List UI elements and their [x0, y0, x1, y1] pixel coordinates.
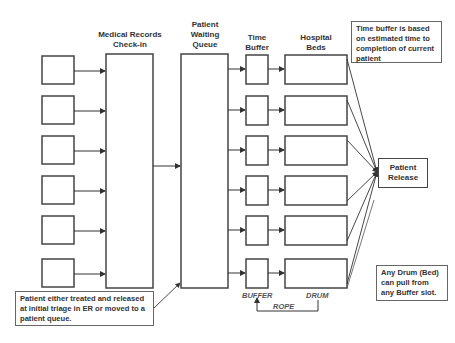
note-triage: Patient either treated and released at i…	[15, 291, 154, 326]
hospital-bed	[285, 176, 347, 205]
buffer-slot	[246, 96, 268, 125]
note-drum: Any Drum (Bed) can pull from any Buffer …	[376, 265, 448, 301]
buffer-slot	[246, 136, 268, 165]
tag-drum: DRUM	[306, 291, 329, 300]
intake-box	[42, 56, 74, 84]
hospital-bed	[285, 55, 347, 84]
hospital-bed	[285, 216, 347, 245]
buffer-slot	[246, 176, 268, 205]
header-medical-records-checkin: Medical Records Check-in	[90, 30, 170, 50]
queue-column	[181, 54, 228, 288]
checkin-column	[106, 54, 153, 288]
intake-box	[42, 216, 74, 244]
triage-callout-leader	[154, 283, 180, 308]
hospital-bed	[285, 136, 347, 165]
header-patient-waiting-queue: Patient Waiting Queue	[176, 20, 234, 50]
bed-to-release-line	[347, 172, 377, 201]
buffer-slot	[246, 55, 268, 84]
tag-rope: ROPE	[273, 302, 294, 311]
hospital-bed	[285, 259, 347, 288]
bed-to-release-line	[347, 59, 377, 172]
intake-box	[42, 136, 74, 164]
header-time-buffer: Time Buffer	[237, 33, 277, 53]
header-hospital-beds: Hospital Beds	[288, 33, 344, 53]
intake-box	[42, 259, 74, 287]
intake-box	[42, 176, 74, 204]
intake-box	[42, 96, 74, 124]
bed-to-release-line	[347, 100, 377, 172]
drum-callout-leader	[347, 200, 374, 288]
bed-to-release-line	[347, 172, 377, 284]
bed-to-release-line	[347, 172, 377, 241]
tag-buffer: BUFFER	[242, 291, 272, 300]
note-time-buffer: Time buffer is based on estimated time t…	[351, 21, 442, 63]
buffer-slot	[246, 216, 268, 245]
patient-release-box: Patient Release	[378, 158, 428, 188]
buffer-slot	[246, 259, 268, 288]
hospital-bed	[285, 96, 347, 125]
